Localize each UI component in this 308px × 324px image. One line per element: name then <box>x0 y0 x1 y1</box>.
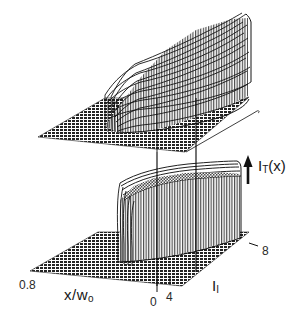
tick-mark-8 <box>249 243 258 246</box>
upper-plot-group <box>38 10 259 152</box>
x-tick-0-8: 0.8 <box>19 278 36 292</box>
upper-surface-vertical-mesh <box>100 10 256 140</box>
ii-axis-label-subscript: I <box>216 284 219 295</box>
ii-axis-label: II <box>212 277 219 295</box>
x-axis-label-subscript: o <box>88 293 94 304</box>
it-axis-label: IT(x) <box>258 157 286 175</box>
ii-tick-4: 4 <box>166 290 173 304</box>
x-tick-0: 0 <box>150 295 157 309</box>
lower-plot-group <box>30 161 250 286</box>
ii-tick-8: 8 <box>262 244 269 258</box>
x-axis-label-denominator: w <box>77 286 88 303</box>
it-axis-arrow-icon <box>243 155 252 184</box>
it-axis-label-argument: (x) <box>268 157 286 174</box>
x-axis-label: x/wo <box>64 286 94 304</box>
x-axis-label-main: x <box>64 286 72 303</box>
